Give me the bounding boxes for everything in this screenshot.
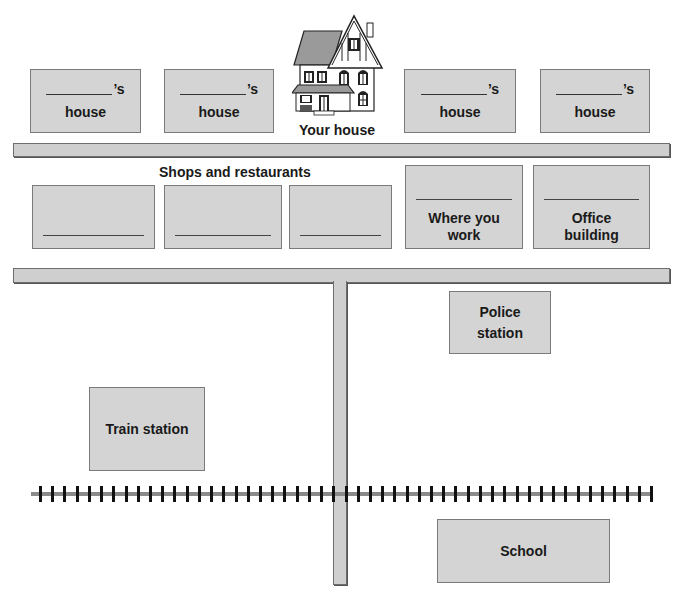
railway-tie [125,486,128,502]
office-building-label: Office building [557,210,627,244]
railway-tie [271,486,274,502]
shop-blank-1[interactable] [43,235,144,236]
train-station-label: Train station [105,421,188,438]
school-label: School [500,543,547,560]
possessive: ’s [247,81,258,98]
railway-tie [173,486,176,502]
shops-heading: Shops and restaurants [159,164,311,180]
railway-tie [418,486,421,502]
railway-tie [247,486,250,502]
railway-tie [601,486,604,502]
possessive: ’s [488,81,499,98]
railway-tie [650,486,653,502]
where-you-work-box: Where you work [405,165,523,249]
neighbor-house-4: ’s house [540,69,650,133]
police-station-box: Police station [449,291,551,354]
where-you-work-label: Where you work [424,210,504,244]
name-blank-1[interactable] [46,94,112,95]
office-blank[interactable] [544,199,638,200]
railway-tie [51,486,54,502]
railway-tie [516,486,519,502]
railway-tie [552,486,555,502]
railway-tie [186,486,189,502]
railway-tie [198,486,201,502]
shop-blank-3[interactable] [300,235,381,236]
railway-tie [161,486,164,502]
railway-tie [137,486,140,502]
railway-tie [235,486,238,502]
house-icon [292,13,384,118]
railway-tie [393,486,396,502]
railway-tie [467,486,470,502]
railway-tie [479,486,482,502]
railway-tie [442,486,445,502]
house-label: house [574,104,615,121]
railway-tie [638,486,641,502]
shop-box-2 [164,185,282,249]
shop-box-1 [32,185,155,249]
railway-tie [528,486,531,502]
neighbor-house-2: ’s house [164,69,274,133]
your-house-label: Your house [299,122,375,138]
road-vertical [333,281,347,585]
police-station-label: Police station [470,302,530,344]
railway-tie [430,486,433,502]
railway-tie [100,486,103,502]
railway-tie [345,486,348,502]
railway-tie [454,486,457,502]
road-top [13,143,670,157]
work-blank[interactable] [416,199,511,200]
neighbor-house-3: ’s house [404,69,516,133]
railway-tie [76,486,79,502]
railway-tie [369,486,372,502]
railway-tie [540,486,543,502]
railway-tie [210,486,213,502]
railway-tie [577,486,580,502]
railway-tie [308,486,311,502]
shop-box-3 [289,185,392,249]
name-blank-4[interactable] [556,94,622,95]
railway-tie [613,486,616,502]
railway-tie [259,486,262,502]
railway-tie [88,486,91,502]
railway-tie [491,486,494,502]
school-box: School [437,519,610,583]
shop-blank-2[interactable] [175,235,271,236]
railway-tie [381,486,384,502]
railway-tie [564,486,567,502]
railway-tie [283,486,286,502]
railway-tie [149,486,152,502]
name-blank-2[interactable] [180,94,246,95]
house-label: house [198,104,239,121]
railway-tie [406,486,409,502]
railway-tie [332,486,335,502]
possessive: ’s [623,81,634,98]
train-station-box: Train station [89,387,205,471]
name-blank-3[interactable] [421,94,487,95]
railway-tie [320,486,323,502]
railway-tie [589,486,592,502]
railway-tie [296,486,299,502]
house-label: house [65,104,106,121]
railway-tie [39,486,42,502]
office-building-box: Office building [533,165,650,249]
house-label: house [439,104,480,121]
railway-tie [222,486,225,502]
railway-tie [112,486,115,502]
possessive: ’s [113,81,124,98]
railway-tie [626,486,629,502]
railway-tie [503,486,506,502]
neighbor-house-1: ’s house [30,69,141,133]
railway-tie [63,486,66,502]
railway-tie [357,486,360,502]
